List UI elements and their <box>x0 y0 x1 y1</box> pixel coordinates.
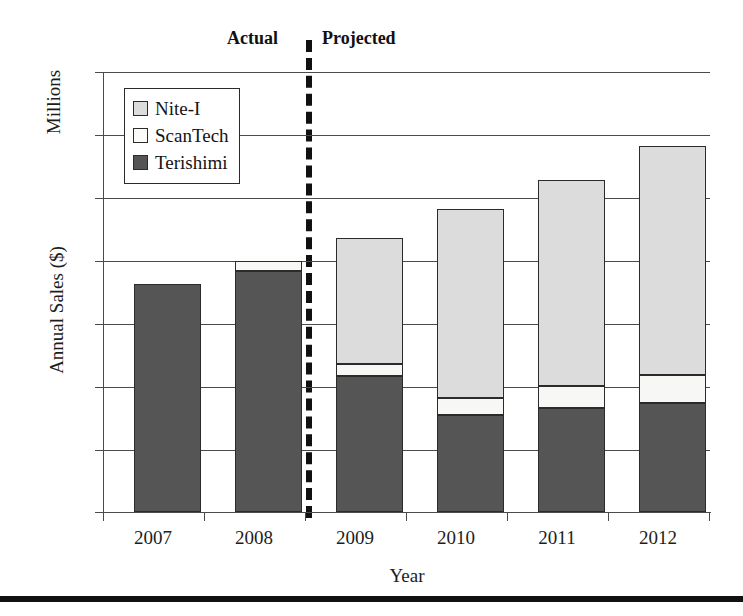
bar-segment-2010-nitei[interactable] <box>437 209 504 398</box>
bar-segment-2010-scantech[interactable] <box>437 398 504 416</box>
x-tick-mark-1 <box>204 512 205 521</box>
bar-segment-2009-scantech[interactable] <box>336 364 403 377</box>
bar-segment-2012-nitei[interactable] <box>639 146 706 375</box>
x-tick-mark-4 <box>507 512 508 521</box>
legend-swatch-scantech-icon <box>133 128 148 143</box>
bar-2011[interactable] <box>538 72 605 512</box>
bar-2008[interactable] <box>235 72 302 512</box>
bar-segment-2009-nitei[interactable] <box>336 238 403 364</box>
chart-legend[interactable]: Nite-I ScanTech Terishimi <box>124 88 240 184</box>
x-tick-label-2007: 2007 <box>98 527 208 549</box>
x-axis-line <box>103 512 711 513</box>
bar-segment-2008-scantech[interactable] <box>235 261 302 271</box>
bar-segment-2011-nitei[interactable] <box>538 180 605 386</box>
legend-label-scantech: ScanTech <box>155 126 229 146</box>
page-bottom-rule <box>0 596 743 602</box>
x-tick-label-2012: 2012 <box>603 527 713 549</box>
x-tick-label-2009: 2009 <box>300 527 410 549</box>
legend-item-terishimi[interactable]: Terishimi <box>133 149 229 176</box>
x-tick-mark-2 <box>305 512 306 521</box>
x-tick-mark-5 <box>608 512 609 521</box>
legend-item-scantech[interactable]: ScanTech <box>133 122 229 149</box>
legend-swatch-terishimi-icon <box>133 155 148 170</box>
bar-segment-2011-scantech[interactable] <box>538 386 605 407</box>
bar-2010[interactable] <box>437 72 504 512</box>
bar-segment-2011-terishimi[interactable] <box>538 408 605 512</box>
chart-figure: Actual Projected Millions Annual Sales (… <box>0 0 743 616</box>
x-tick-label-2008: 2008 <box>199 527 309 549</box>
bar-segment-2012-terishimi[interactable] <box>639 403 706 512</box>
bar-segment-2009-terishimi[interactable] <box>336 376 403 512</box>
bar-segment-2008-terishimi[interactable] <box>235 271 302 512</box>
legend-label-nitei: Nite-I <box>155 99 200 119</box>
bar-segment-2007-terishimi[interactable] <box>134 284 201 512</box>
bar-segment-2012-scantech[interactable] <box>639 375 706 403</box>
x-tick-mark-3 <box>406 512 407 521</box>
x-tick-label-2011: 2011 <box>502 527 612 549</box>
x-tick-label-2010: 2010 <box>401 527 511 549</box>
x-tick-mark-left-edge <box>103 512 104 521</box>
actual-period-label: Actual <box>227 28 278 48</box>
legend-swatch-nitei-icon <box>133 101 148 116</box>
projected-period-label: Projected <box>322 28 396 48</box>
bar-segment-2010-terishimi[interactable] <box>437 415 504 512</box>
bar-2009[interactable] <box>336 72 403 512</box>
x-tick-mark-right-edge <box>709 512 710 521</box>
legend-item-nitei[interactable]: Nite-I <box>133 95 229 122</box>
x-axis-title: Year <box>103 565 711 587</box>
legend-label-terishimi: Terishimi <box>155 153 228 173</box>
bar-2012[interactable] <box>639 72 706 512</box>
y-axis-title: Annual Sales ($) <box>47 205 67 415</box>
y-axis-unit-label: Millions <box>44 42 64 162</box>
